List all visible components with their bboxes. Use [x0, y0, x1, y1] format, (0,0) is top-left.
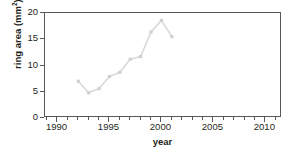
data-point — [97, 87, 100, 90]
data-point — [149, 30, 152, 33]
data-point — [87, 91, 90, 94]
data-series-ring-area — [45, 13, 282, 118]
y-axis-label: ring area (mm2) — [11, 0, 23, 89]
x-tick-label: 2005 — [192, 121, 232, 132]
data-point — [77, 80, 80, 83]
y-axis-label-exponent: 2 — [11, 2, 18, 6]
plot-area — [44, 12, 281, 117]
y-tick-label: 10 — [27, 60, 38, 70]
x-axis-label: year — [44, 136, 281, 147]
y-axis-label-text: ring area (mm — [12, 6, 23, 69]
y-tick-label: 5 — [33, 86, 38, 96]
data-point — [139, 55, 142, 58]
x-tick-label: 2010 — [244, 121, 284, 132]
x-tick-label: 1990 — [36, 121, 76, 132]
y-axis-label-paren: ) — [12, 0, 23, 2]
ring-area-chart: ring area (mm2) 05101520 199019952000200… — [0, 0, 289, 158]
y-tick-label: 15 — [27, 33, 38, 43]
data-point — [108, 75, 111, 78]
data-point — [129, 58, 132, 61]
data-point — [118, 71, 121, 74]
y-tick-label: 20 — [27, 7, 38, 17]
series-line — [78, 20, 172, 92]
data-point — [170, 35, 173, 38]
y-tick-mark — [40, 117, 44, 118]
data-point — [160, 19, 163, 22]
series-markers — [77, 19, 174, 95]
x-tick-label: 2000 — [140, 121, 180, 132]
x-tick-label: 1995 — [88, 121, 128, 132]
